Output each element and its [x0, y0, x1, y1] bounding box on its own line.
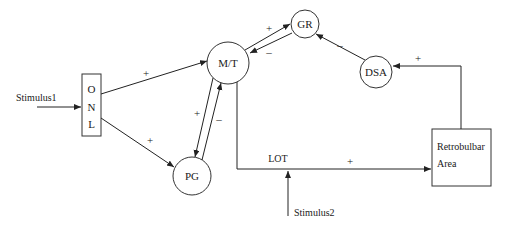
- onl-letter-o: O: [88, 83, 96, 95]
- edge-retrobulbar-to-dsa: +: [393, 52, 461, 129]
- sign-onl-pg: +: [147, 134, 153, 146]
- gr-node: GR: [291, 10, 319, 38]
- edge-onl-to-pg: +: [101, 118, 174, 167]
- stimulus1-label: Stimulus1: [16, 92, 57, 103]
- edge-lot-to-retrobulbar: LOT +: [237, 82, 431, 169]
- lot-label: LOT: [268, 153, 287, 164]
- stimulus2-input: Stimulus2: [288, 171, 335, 218]
- dsa-label: DSA: [365, 66, 387, 78]
- pg-node: PG: [173, 157, 211, 195]
- gr-label: GR: [297, 18, 313, 30]
- pg-label: PG: [185, 170, 199, 182]
- edge-mt-to-pg: +: [194, 78, 213, 157]
- retrobulbar-label-line2: Area: [437, 158, 457, 169]
- edge-gr-to-mt: –: [250, 33, 292, 58]
- retrobulbar-label-line1: Retrobulbar: [437, 141, 485, 152]
- stimulus1-input: Stimulus1: [16, 92, 81, 107]
- edge-pg-to-mt: –: [202, 83, 222, 160]
- sign-dsa-gr: –: [336, 39, 343, 51]
- sign-retrobulbar-dsa: +: [415, 52, 421, 64]
- onl-letter-n: N: [88, 101, 96, 113]
- edge-onl-to-mt: +: [101, 61, 207, 94]
- dsa-node: DSA: [360, 56, 392, 88]
- retrobulbar-node: Retrobulbar Area: [432, 129, 491, 186]
- onl-node: O N L: [82, 74, 101, 136]
- sign-mt-gr: +: [266, 22, 272, 34]
- sign-mt-pg: +: [194, 107, 200, 119]
- edge-dsa-to-gr: –: [316, 34, 365, 60]
- sign-lot-retrobulbar: +: [347, 155, 353, 167]
- stimulus2-label: Stimulus2: [294, 207, 335, 218]
- sign-onl-mt: +: [143, 67, 149, 79]
- mt-node: M/T: [207, 42, 249, 84]
- mt-label: M/T: [218, 57, 238, 69]
- sign-pg-mt: –: [215, 113, 222, 125]
- onl-letter-l: L: [88, 118, 95, 130]
- sign-gr-mt: –: [265, 46, 272, 58]
- olfactory-circuit-diagram: Stimulus1 O N L + + M/T GR + – PG: [0, 0, 508, 229]
